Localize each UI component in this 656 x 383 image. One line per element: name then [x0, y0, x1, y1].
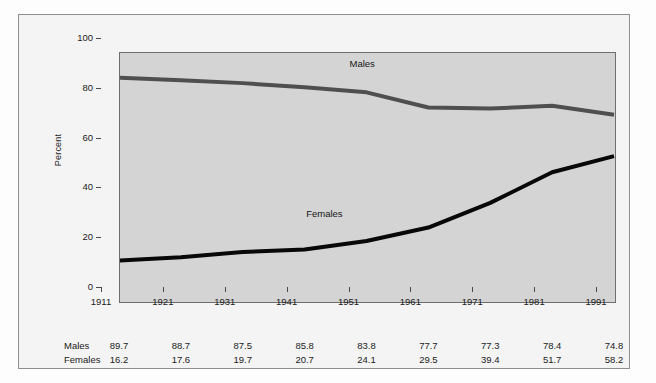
y-axis-title: Percent [53, 105, 63, 195]
x-tick-label: 1921 [141, 296, 185, 307]
y-tick-mark [96, 237, 101, 238]
x-tick-mark [534, 287, 535, 292]
table-cell: 85.8 [283, 340, 327, 351]
y-tick-mark [96, 187, 101, 188]
x-tick-mark [163, 287, 164, 292]
y-tick-label: 60 [63, 132, 93, 143]
y-tick-label: 20 [63, 231, 93, 242]
series-lines [120, 53, 615, 302]
y-tick-label: 0 [63, 281, 93, 292]
table-cell: 87.5 [221, 340, 265, 351]
x-tick-label: 1941 [265, 296, 309, 307]
x-tick-label: 1961 [388, 296, 432, 307]
x-tick-mark [596, 287, 597, 292]
table-cell: 89.7 [97, 340, 141, 351]
annotation-females: Females [306, 208, 342, 219]
x-tick-mark [287, 287, 288, 292]
y-tick-mark [96, 38, 101, 39]
y-tick-mark [96, 88, 101, 89]
table-cell: 83.8 [345, 340, 389, 351]
data-table: Males89.788.787.585.883.877.777.378.474.… [37, 340, 649, 368]
plot-area: MalesFemales [119, 52, 616, 303]
x-tick-mark [349, 287, 350, 292]
x-tick-mark [472, 287, 473, 292]
table-cell: 78.4 [530, 340, 574, 351]
table-cell: 58.2 [592, 354, 636, 365]
table-row: Females16.217.619.720.724.129.539.451.75… [37, 354, 649, 368]
series-line-females [120, 156, 614, 261]
table-cell: 51.7 [530, 354, 574, 365]
x-tick-label: 1981 [512, 296, 556, 307]
x-tick-label: 1991 [574, 296, 618, 307]
y-tick-mark [96, 138, 101, 139]
table-cell: 39.4 [468, 354, 512, 365]
table-cell: 20.7 [283, 354, 327, 365]
x-tick-label: 1951 [327, 296, 371, 307]
x-tick-label: 1971 [450, 296, 494, 307]
chart-figure: Percent 020406080100 MalesFemales 191119… [0, 0, 656, 383]
table-cell: 74.8 [592, 340, 636, 351]
table-cell: 19.7 [221, 354, 265, 365]
x-tick-mark [101, 287, 102, 292]
x-tick-label: 1911 [79, 296, 123, 307]
series-line-males [120, 78, 614, 115]
y-tick-label: 80 [63, 82, 93, 93]
table-cell: 88.7 [159, 340, 203, 351]
x-tick-mark [225, 287, 226, 292]
figure-frame: Percent 020406080100 MalesFemales 191119… [18, 14, 630, 369]
table-cell: 77.7 [406, 340, 450, 351]
table-row: Males89.788.787.585.883.877.777.378.474.… [37, 340, 649, 354]
table-cell: 24.1 [345, 354, 389, 365]
x-tick-label: 1931 [203, 296, 247, 307]
table-cell: 16.2 [97, 354, 141, 365]
annotation-males: Males [350, 58, 375, 69]
x-tick-mark [410, 287, 411, 292]
table-cell: 77.3 [468, 340, 512, 351]
y-tick-label: 40 [63, 181, 93, 192]
table-cell: 29.5 [406, 354, 450, 365]
table-cell: 17.6 [159, 354, 203, 365]
y-tick-label: 100 [63, 32, 93, 43]
